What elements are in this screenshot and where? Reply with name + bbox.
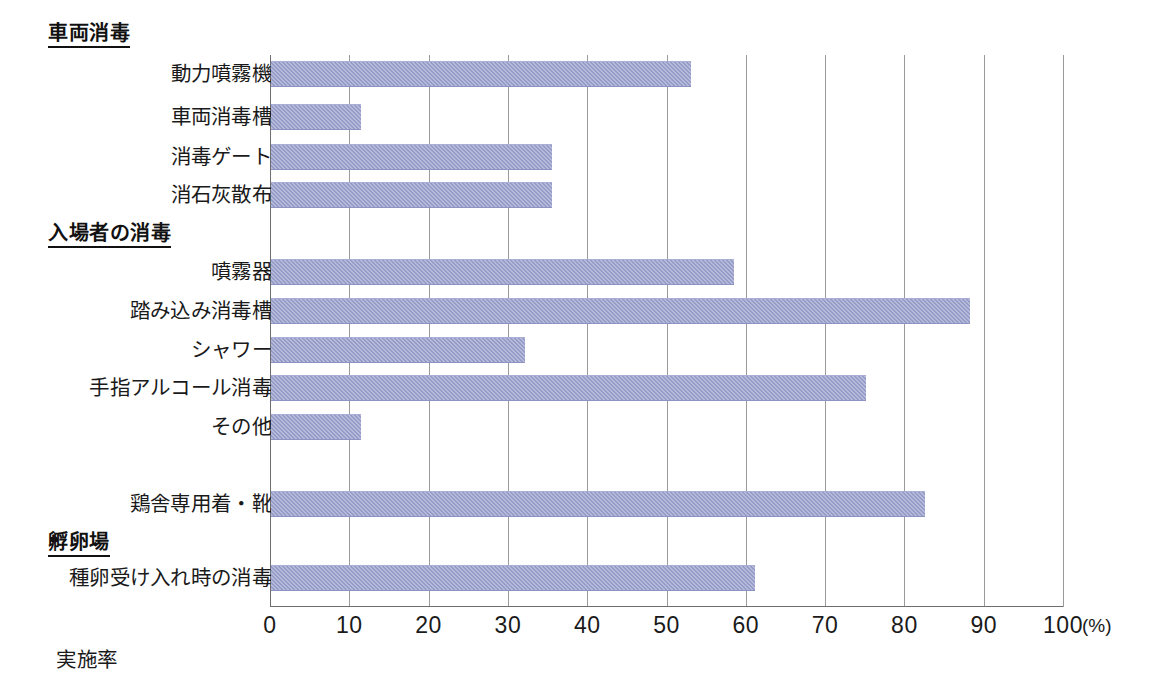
x-tick-label-50: 50 [653, 612, 680, 639]
chart-row: 動力噴霧機 [0, 57, 1158, 91]
chart-row: その他 [0, 410, 1158, 444]
category-label: その他 [211, 410, 272, 444]
bar [271, 337, 525, 363]
bar [271, 182, 552, 208]
plot-area-frame [270, 55, 1063, 607]
category-label: 車両消毒槽 [171, 100, 273, 134]
chart-row: シャワー [0, 333, 1158, 367]
x-axis-title: 実施率 [0, 643, 1158, 673]
category-label: 手指アルコール消毒 [89, 371, 272, 405]
chart-row: 消石灰散布 [0, 178, 1158, 212]
x-tick-label-60: 60 [733, 612, 760, 639]
x-axis-title-text: 実施率 [56, 648, 118, 671]
x-tick-label-20: 20 [415, 612, 442, 639]
bar [271, 104, 361, 130]
chart-row: 噴霧器 [0, 255, 1158, 289]
x-tick-label-30: 30 [495, 612, 522, 639]
chart-row: 車両消毒槽 [0, 100, 1158, 134]
chart-row: 鶏舎専用着・靴 [0, 487, 1158, 521]
chart-row: 踏み込み消毒槽 [0, 294, 1158, 328]
x-tick-label-70: 70 [812, 612, 839, 639]
x-axis-unit: (%) [1082, 615, 1112, 637]
bar [271, 144, 552, 170]
category-label: 消毒ゲート [171, 140, 273, 174]
bar [271, 414, 361, 440]
category-label: シャワー [191, 333, 272, 367]
bar [271, 298, 970, 324]
category-label: 動力噴霧機 [171, 57, 273, 91]
chart-row: 手指アルコール消毒 [0, 371, 1158, 405]
x-tick-label-40: 40 [574, 612, 601, 639]
bar [271, 375, 866, 401]
x-tick-label-10: 10 [336, 612, 363, 639]
category-label: 消石灰散布 [171, 178, 273, 212]
x-tick-label-80: 80 [891, 612, 918, 639]
chart-row: 消毒ゲート [0, 140, 1158, 174]
category-label: 鶏舎専用着・靴 [130, 487, 272, 521]
bar [271, 61, 691, 87]
group-header: 入場者の消毒 [48, 222, 171, 248]
category-label: 踏み込み消毒槽 [130, 294, 272, 328]
bar [271, 565, 755, 591]
bar-chart: 車両消毒動力噴霧機車両消毒槽消毒ゲート消石灰散布入場者の消毒噴霧器踏み込み消毒槽… [0, 0, 1158, 683]
x-tick-label-90: 90 [970, 612, 997, 639]
bar [271, 259, 734, 285]
x-tick-label-0: 0 [263, 612, 276, 639]
gridline-100 [1063, 55, 1064, 607]
category-label: 噴霧器 [211, 255, 272, 289]
group-header: 車両消毒 [48, 22, 130, 48]
x-tick-label-100: 100 [1043, 612, 1083, 639]
chart-row: 種卵受け入れ時の消毒 [0, 561, 1158, 595]
group-header: 孵卵場 [48, 531, 110, 557]
bar [271, 491, 925, 517]
category-label: 種卵受け入れ時の消毒 [69, 561, 272, 595]
